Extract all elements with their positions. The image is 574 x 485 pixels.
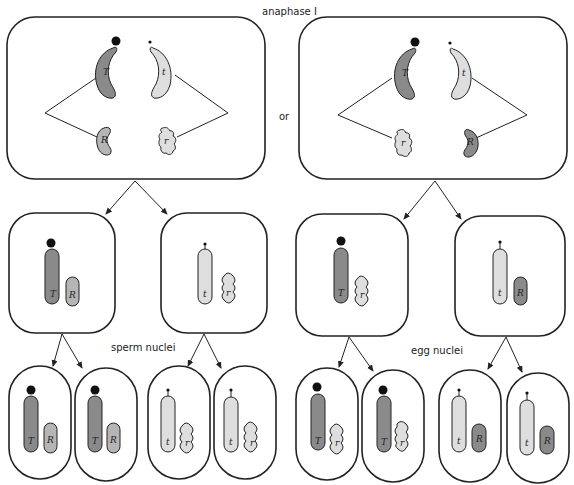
allele-label: R (476, 434, 483, 444)
sperm-nucleus-1 (9, 366, 71, 479)
allele-label: R (110, 435, 117, 445)
allele-label: r (401, 138, 405, 148)
sperm-nucleus-4 (214, 366, 276, 479)
allele-label: t (498, 288, 502, 298)
meiosis-diagram (0, 0, 574, 485)
allele-label: r (335, 438, 339, 448)
allele-label: t (457, 436, 461, 446)
daughter-cell-2 (161, 213, 267, 333)
egg-nucleus-1 (296, 368, 358, 480)
daughter-cell-3 (296, 214, 408, 336)
allele-label: R (544, 436, 551, 446)
allele-label: t (462, 68, 466, 78)
allele-label: r (164, 136, 168, 146)
egg-nucleus-2 (362, 370, 424, 482)
or-label: or (279, 111, 289, 122)
allele-label: t (525, 438, 529, 448)
sperm-nucleus-3 (148, 366, 210, 479)
allele-label: r (250, 438, 254, 448)
anaphase-cell-2 (299, 17, 567, 179)
sperm-nucleus-2 (75, 368, 137, 481)
allele-label: T (338, 288, 344, 298)
allele-label: r (185, 438, 189, 448)
allele-label: T (92, 436, 98, 446)
allele-label: R (517, 288, 524, 298)
allele-label: t (166, 437, 170, 447)
allele-label: R (69, 290, 76, 300)
allele-label: t (203, 289, 207, 299)
allele-label: r (360, 290, 364, 300)
egg-nucleus-3 (439, 370, 501, 482)
allele-label: T (103, 67, 109, 77)
allele-label: T (402, 68, 408, 78)
allele-label: R (467, 137, 474, 147)
egg-nuclei-label: egg nuclei (411, 345, 463, 356)
egg-nucleus-4 (507, 373, 569, 483)
allele-label: t (229, 437, 233, 447)
sperm-nuclei-label: sperm nuclei (111, 342, 175, 353)
allele-label: r (226, 288, 230, 298)
allele-label: r (400, 438, 404, 448)
allele-label: R (47, 435, 54, 445)
allele-label: R (101, 135, 108, 145)
allele-label: T (315, 436, 321, 446)
allele-label: T (28, 436, 34, 446)
allele-label: t (162, 67, 166, 77)
daughter-cell-4 (455, 216, 565, 336)
title-label: anaphase I (262, 6, 317, 17)
allele-label: T (50, 289, 56, 299)
allele-label: T (381, 437, 387, 447)
anaphase-cell-1 (7, 17, 265, 179)
daughter-cell-1 (9, 213, 115, 333)
